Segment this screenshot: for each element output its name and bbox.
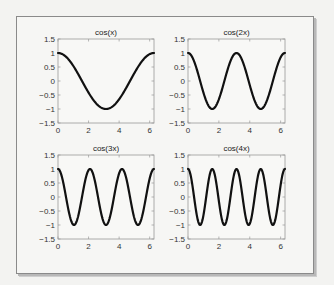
y-tick-label: 0.5: [44, 63, 56, 72]
y-tick-label: −0.5: [169, 91, 185, 100]
y-tick-label: 0.5: [174, 63, 186, 72]
y-tick-label: 1: [181, 49, 186, 58]
y-tick-label: −1: [176, 105, 186, 114]
x-tick-label: 6: [147, 126, 152, 135]
subplot-cos-4x: −1.5−1−0.500.511.50246cos(4x): [169, 144, 285, 251]
y-tick-label: −1: [176, 221, 186, 230]
x-tick-label: 6: [278, 126, 283, 135]
y-tick-label: 0.5: [174, 179, 186, 188]
y-tick-label: 1.5: [44, 151, 56, 160]
y-tick-label: 0: [51, 77, 56, 86]
y-tick-label: 1.5: [44, 35, 56, 44]
x-tick-label: 4: [117, 126, 122, 135]
y-tick-label: −1: [46, 221, 56, 230]
y-tick-label: −0.5: [39, 207, 55, 216]
x-tick-label: 0: [186, 126, 191, 135]
y-tick-label: 0: [51, 193, 56, 202]
y-tick-label: 1: [51, 165, 56, 174]
subplot-title: cos(2x): [223, 28, 250, 37]
y-tick-label: −1.5: [169, 119, 185, 128]
y-tick-label: −0.5: [169, 207, 185, 216]
x-tick-label: 2: [217, 242, 222, 251]
x-tick-label: 4: [117, 242, 122, 251]
subplot-cos-2x: −1.5−1−0.500.511.50246cos(2x): [169, 28, 285, 135]
x-tick-label: 0: [56, 242, 61, 251]
subplot-title: cos(4x): [223, 144, 250, 153]
subplot-cos-x: −1.5−1−0.500.511.50246cos(x): [39, 28, 154, 135]
x-tick-label: 0: [56, 126, 61, 135]
x-tick-label: 2: [86, 126, 91, 135]
y-tick-label: 1: [51, 49, 56, 58]
plot-area: [58, 155, 154, 239]
y-tick-label: 1.5: [174, 151, 186, 160]
plot-area: [188, 39, 285, 123]
y-tick-label: −1.5: [39, 235, 55, 244]
y-tick-label: −0.5: [39, 91, 55, 100]
x-tick-label: 0: [186, 242, 191, 251]
y-tick-label: 1.5: [174, 35, 186, 44]
plot-area: [188, 155, 285, 239]
y-tick-label: 0: [181, 77, 186, 86]
x-tick-label: 2: [86, 242, 91, 251]
subplot-title: cos(3x): [93, 144, 120, 153]
y-tick-label: 0: [181, 193, 186, 202]
x-tick-label: 6: [147, 242, 152, 251]
x-tick-label: 6: [278, 242, 283, 251]
plot-area: [58, 39, 154, 123]
subplot-cos-3x: −1.5−1−0.500.511.50246cos(3x): [39, 144, 154, 251]
y-tick-label: −1.5: [39, 119, 55, 128]
y-tick-label: −1: [46, 105, 56, 114]
y-tick-label: −1.5: [169, 235, 185, 244]
figure-canvas: −1.5−1−0.500.511.50246cos(x) −1.5−1−0.50…: [0, 0, 334, 285]
subplot-title: cos(x): [95, 28, 117, 37]
y-tick-label: 0.5: [44, 179, 56, 188]
x-tick-label: 2: [217, 126, 222, 135]
x-tick-label: 4: [248, 126, 253, 135]
x-tick-label: 4: [248, 242, 253, 251]
y-tick-label: 1: [181, 165, 186, 174]
